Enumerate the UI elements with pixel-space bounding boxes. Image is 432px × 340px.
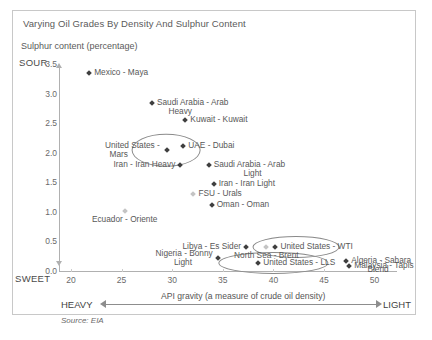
data-point-label: Malaysia - Tapis xyxy=(354,262,413,272)
data-point-marker xyxy=(86,70,92,76)
source-note: Source: EIA xyxy=(61,316,104,325)
data-point-label: Ecuador - Oriente xyxy=(92,215,157,225)
data-point-marker xyxy=(177,162,183,168)
data-point-marker xyxy=(273,245,279,251)
y-tick-label: 3.0 xyxy=(35,89,57,99)
x-tick-label: 50 xyxy=(364,275,386,285)
data-point-marker xyxy=(209,202,215,208)
data-point-label: United States - Mars xyxy=(105,140,162,159)
x-axis-tick xyxy=(71,269,72,272)
x-axis-title: API gravity (a measure of crude oil dens… xyxy=(161,291,325,301)
data-point-label: UAE - Dubai xyxy=(188,141,234,151)
data-point-label: Kuwait - Kuwait xyxy=(190,116,247,126)
x-axis-tick xyxy=(223,269,224,272)
y-tick-label: 0.0 xyxy=(35,266,57,276)
y-tick-label: 2.5 xyxy=(35,118,57,128)
chart-figure: Varying Oil Grades By Density And Sulphu… xyxy=(12,10,416,315)
y-tick-label: 1.0 xyxy=(35,207,57,217)
density-axis-arrow-line xyxy=(106,304,378,305)
data-point-marker xyxy=(255,260,261,266)
data-point-marker xyxy=(183,117,189,123)
x-tick-label: 25 xyxy=(111,275,133,285)
y-tick-label: 2.0 xyxy=(35,148,57,158)
density-arrow-left-icon xyxy=(100,300,106,308)
x-axis-tick xyxy=(172,269,173,272)
data-point-marker xyxy=(122,208,128,214)
data-point-label: Mexico - Maya xyxy=(94,68,148,78)
x-axis-right-label: LIGHT xyxy=(383,299,411,310)
data-point-marker xyxy=(206,162,212,168)
data-point-label: United States - LLS xyxy=(263,259,335,269)
x-axis-tick xyxy=(122,269,123,272)
y-axis-line xyxy=(59,67,60,272)
y-tick-label: 0.5 xyxy=(35,236,57,246)
data-point-marker xyxy=(263,245,269,251)
data-point-marker xyxy=(211,181,217,187)
data-point-label: Iran - Iran Heavy xyxy=(113,160,175,170)
data-point-label: Nigeria - Bonny Light xyxy=(156,248,213,267)
data-point-label: United States - WTI xyxy=(280,243,352,253)
x-tick-label: 30 xyxy=(161,275,183,285)
y-tick-label: 1.5 xyxy=(35,177,57,187)
data-point-label: Saudi Arabia - Arab Light xyxy=(214,159,286,178)
data-point-marker xyxy=(180,143,186,149)
x-axis-left-label: HEAVY xyxy=(61,299,93,310)
data-point-marker xyxy=(149,100,155,106)
data-point-label: Saudi Arabia - Arab Heavy xyxy=(157,97,229,116)
x-axis-tick xyxy=(324,269,325,272)
x-axis-line xyxy=(59,271,397,272)
x-tick-label: 35 xyxy=(212,275,234,285)
data-point-marker xyxy=(243,245,249,251)
data-point-marker xyxy=(191,191,197,197)
data-point-label: Oman - Oman xyxy=(217,200,270,210)
density-arrow-right-icon xyxy=(376,300,382,308)
scatter-plot-area: SOUR SWEET 0.00.51.01.52.02.53.03.5 2025… xyxy=(13,11,417,316)
x-tick-label: 45 xyxy=(313,275,335,285)
data-point-label: FSU - Urals xyxy=(198,189,241,199)
y-tick-label: 3.5 xyxy=(35,59,57,69)
x-axis-tick xyxy=(273,269,274,272)
data-point-marker xyxy=(215,255,221,261)
data-point-marker xyxy=(164,147,170,153)
x-tick-label: 40 xyxy=(262,275,284,285)
x-tick-label: 20 xyxy=(60,275,82,285)
